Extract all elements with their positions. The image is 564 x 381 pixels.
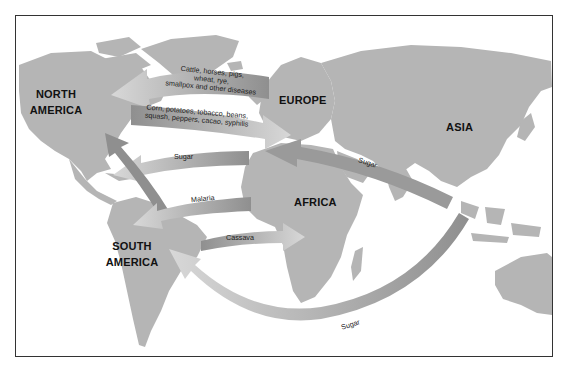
map-frame: NORTH AMERICA EUROPE ASIA AFRICA SOUTH A… [15,15,553,357]
region-label-africa: AFRICA [294,194,337,210]
region-label-line: AMERICA [22,102,90,118]
land-australia [495,253,552,315]
land-indonesia [461,201,541,243]
flow-label-africa-to-caribbean-sugar: Sugar [174,153,193,161]
region-label-asia: ASIA [446,119,473,135]
region-label-south-america: SOUTH AMERICA [100,238,164,270]
world-map [16,16,552,356]
region-label-line: NORTH [22,86,90,102]
region-label-line: AMERICA [100,254,164,270]
region-label-line: SOUTH [100,238,164,254]
flow-label-south-america-to-africa-cassava: Cassava [226,234,254,242]
region-label-europe: EUROPE [279,92,327,108]
land-madagascar [351,247,363,281]
region-label-north-america: NORTH AMERICA [22,86,90,118]
